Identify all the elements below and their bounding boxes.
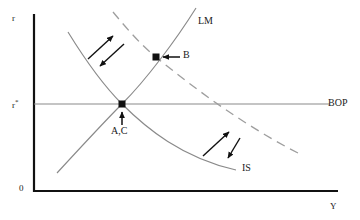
arrow-lower-up-icon [203, 132, 229, 156]
arrow-upper-up-icon [88, 36, 113, 59]
x-axis-label: Y [330, 202, 337, 211]
bop-line-label: BOP [328, 98, 347, 108]
lm-curve [57, 8, 196, 173]
y-tick-label-r-star: r* [12, 99, 19, 110]
y-tick-superscript: * [15, 98, 19, 106]
point-b-marker [153, 54, 160, 61]
point-b-label: B [183, 50, 190, 60]
arrow-upper-down-icon [100, 44, 124, 66]
is-lm-bop-diagram [0, 0, 360, 220]
point-ac-label: A,C [111, 126, 127, 136]
is-curve-label: IS [242, 163, 251, 173]
origin-label: 0 [19, 184, 24, 193]
point-ac-marker [119, 101, 126, 108]
arrow-lower-down-icon [228, 138, 240, 158]
diagram-canvas: r Y 0 r* LM IS BOP B A,C [0, 0, 360, 220]
y-axis-label: r [12, 14, 15, 23]
lm-curve-label: LM [198, 16, 213, 26]
